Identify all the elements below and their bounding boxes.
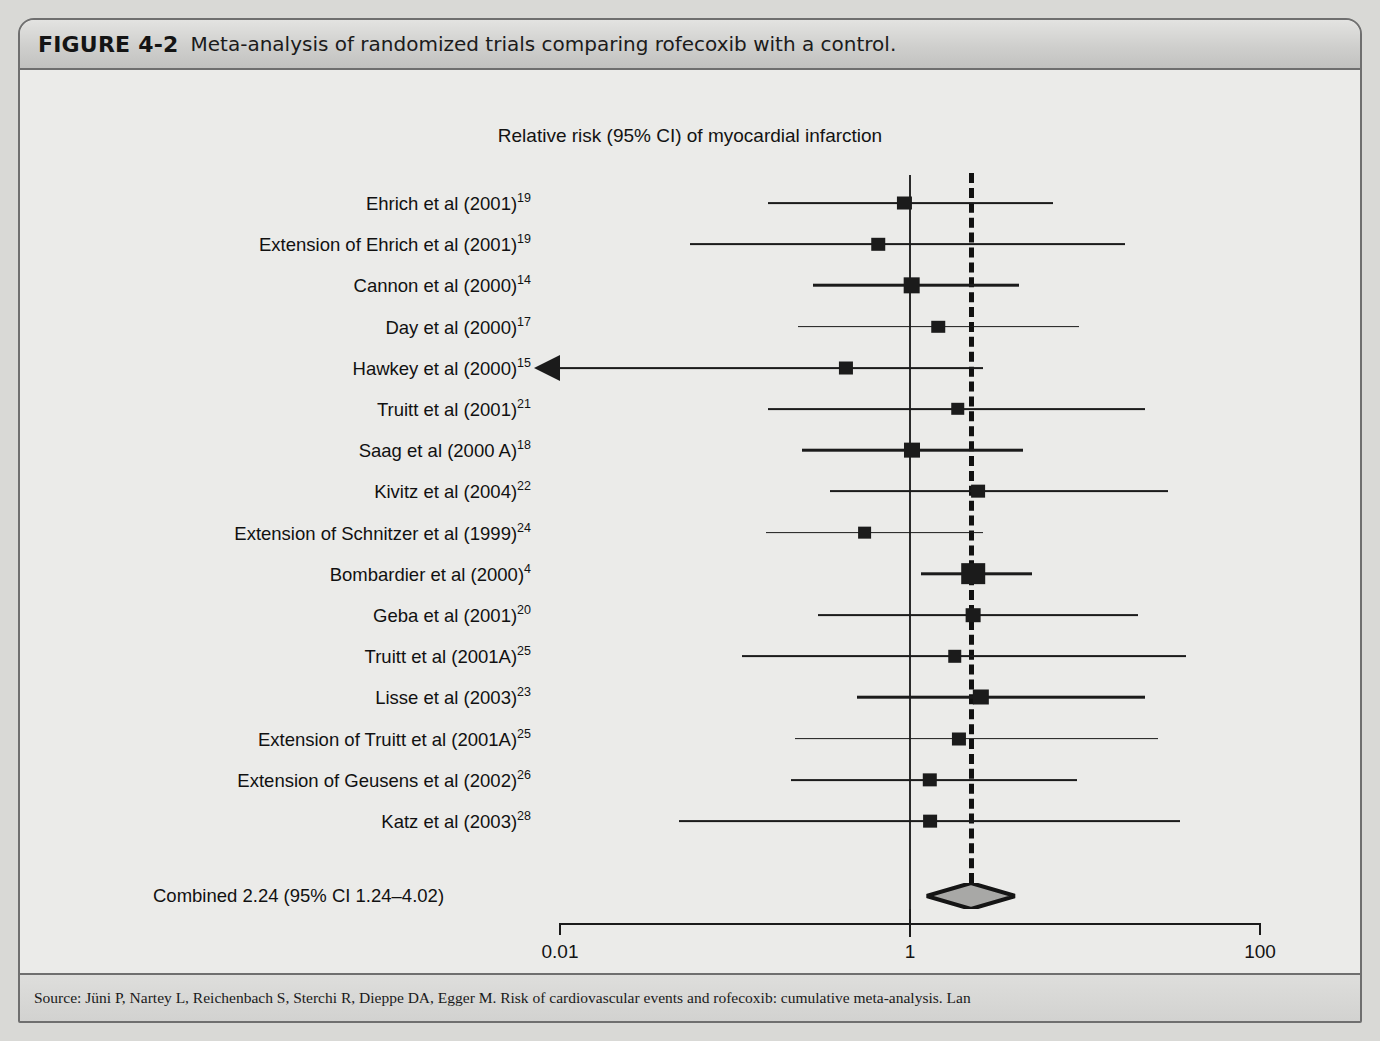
figure-card: FIGURE 4-2 Meta-analysis of randomized t… [18, 18, 1362, 1023]
study-reference-number: 25 [517, 645, 531, 659]
study-label-text: Truitt et al (2001) [377, 399, 517, 420]
study-label-text: Extension of Geusens et al (2002) [237, 769, 517, 790]
figure-source-band: Source: Jüni P, Nartey L, Reichenbach S,… [20, 973, 1360, 1021]
study-label-text: Hawkey et al (2000) [353, 357, 518, 378]
study-label-text: Ehrich et al (2001) [366, 193, 517, 214]
study-estimate-box [858, 526, 872, 539]
study-label: Ehrich et al (2001)19 [366, 191, 531, 214]
x-axis-tick-label: 0.01 [542, 941, 579, 963]
study-reference-number: 25 [517, 727, 531, 741]
ci-left-arrow-icon [534, 355, 560, 381]
study-reference-number: 28 [517, 809, 531, 823]
study-label-text: Katz et al (2003) [381, 811, 517, 832]
study-reference-number: 19 [517, 191, 531, 205]
study-reference-number: 20 [517, 603, 531, 617]
study-label-text: Truitt et al (2001A) [365, 646, 518, 667]
study-reference-number: 18 [517, 439, 531, 453]
study-label: Extension of Ehrich et al (2001)19 [259, 233, 531, 256]
study-label: Katz et al (2003)28 [381, 809, 531, 832]
study-label-text: Bombardier et al (2000) [330, 563, 524, 584]
study-reference-number: 21 [517, 397, 531, 411]
study-label: Extension of Schnitzer et al (1999)24 [234, 521, 531, 544]
study-label-text: Extension of Schnitzer et al (1999) [234, 522, 517, 543]
study-estimate-box [951, 403, 965, 415]
figure-body: Relative risk (95% CI) of myocardial inf… [20, 70, 1360, 973]
study-estimate-box [973, 690, 989, 705]
study-reference-number: 4 [524, 562, 531, 576]
study-label: Bombardier et al (2000)4 [330, 562, 531, 585]
study-label: Day et al (2000)17 [385, 315, 531, 338]
x-axis-tick-label: 1 [905, 941, 916, 963]
study-label-text: Cannon et al (2000) [354, 275, 518, 296]
pooled-estimate-dashed-line [969, 173, 974, 898]
study-label: Hawkey et al (2000)15 [353, 356, 531, 379]
combined-estimate-label: Combined 2.24 (95% CI 1.24–4.02) [153, 885, 444, 907]
study-label-text: Extension of Ehrich et al (2001) [259, 234, 517, 255]
study-estimate-box [872, 238, 886, 250]
study-estimate-box [923, 773, 937, 786]
figure-caption: Meta-analysis of randomized trials compa… [191, 32, 897, 56]
figure-header: FIGURE 4-2 Meta-analysis of randomized t… [20, 20, 1360, 70]
study-label-text: Lisse et al (2003) [375, 687, 517, 708]
study-estimate-box [948, 650, 962, 662]
study-estimate-box [839, 361, 853, 374]
figure-source-text: Source: Jüni P, Nartey L, Reichenbach S,… [34, 989, 1354, 1007]
x-axis-tick [1259, 923, 1261, 935]
study-label: Extension of Truitt et al (2001A)25 [258, 727, 531, 750]
confidence-interval-line [830, 490, 1168, 492]
study-reference-number: 24 [517, 521, 531, 535]
study-estimate-box [923, 815, 937, 828]
confidence-interval-line [766, 532, 983, 534]
figure-number: FIGURE 4-2 [38, 32, 179, 57]
study-reference-number: 19 [517, 233, 531, 247]
confidence-interval-line [560, 367, 983, 369]
study-reference-number: 17 [517, 315, 531, 329]
study-estimate-box [903, 278, 920, 293]
study-reference-number: 15 [517, 356, 531, 370]
forest-plot: Relative risk (95% CI) of myocardial inf… [20, 70, 1360, 973]
study-estimate-box [931, 320, 945, 332]
study-reference-number: 23 [517, 686, 531, 700]
confidence-interval-line [742, 655, 1186, 657]
study-estimate-box [962, 563, 986, 585]
x-axis-tick [559, 923, 561, 935]
x-axis-tick [909, 909, 911, 937]
study-estimate-box [952, 732, 966, 745]
study-estimate-box [971, 485, 985, 498]
study-label: Truitt et al (2001A)25 [365, 645, 531, 668]
study-label: Kivitz et al (2004)22 [374, 480, 531, 503]
study-label: Truitt et al (2001)21 [377, 397, 531, 420]
confidence-interval-line [690, 243, 1126, 245]
study-reference-number: 22 [517, 480, 531, 494]
study-estimate-box [903, 443, 919, 458]
diamond-outline [926, 883, 1015, 909]
confidence-interval-line [795, 738, 1158, 740]
study-label: Cannon et al (2000)14 [354, 274, 531, 297]
study-label-text: Geba et al (2001) [373, 605, 517, 626]
study-reference-number: 26 [517, 768, 531, 782]
study-estimate-box [966, 608, 981, 622]
study-label: Extension of Geusens et al (2002)26 [237, 768, 531, 791]
study-label: Geba et al (2001)20 [373, 603, 531, 626]
study-label-column: Ehrich et al (2001)19Extension of Ehrich… [20, 70, 1360, 973]
study-label-text: Extension of Truitt et al (2001A) [258, 728, 517, 749]
x-axis-tick-label: 100 [1244, 941, 1276, 963]
confidence-interval-line [857, 696, 1145, 699]
study-label-text: Kivitz et al (2004) [374, 481, 517, 502]
study-label: Lisse et al (2003)23 [375, 686, 531, 709]
study-label: Saag et al (2000 A)18 [359, 439, 531, 462]
study-reference-number: 14 [517, 274, 531, 288]
study-label-text: Day et al (2000) [385, 316, 517, 337]
study-estimate-box [897, 197, 911, 210]
study-label-text: Saag et al (2000 A) [359, 440, 517, 461]
